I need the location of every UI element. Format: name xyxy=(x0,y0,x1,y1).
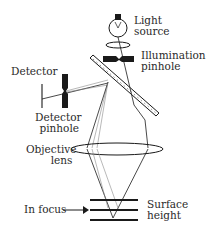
confocal-diagram: Light source Illumination pinhole Detect… xyxy=(0,0,206,235)
in-focus-label: In focus xyxy=(24,204,67,215)
objective-lens-shape xyxy=(71,143,163,155)
illumination-pinhole-label: Illumination pinhole xyxy=(141,50,206,72)
light-source-label: Light source xyxy=(134,15,170,37)
illumination-pinhole-shape xyxy=(103,56,134,62)
objective-lens-label: Objective lens xyxy=(26,144,76,166)
detector-label: Detector xyxy=(11,66,58,77)
condenser-lens xyxy=(106,42,130,48)
surface-height-label: Surface height xyxy=(147,199,188,221)
light-bulb-icon xyxy=(109,14,127,37)
surface-height-lines xyxy=(90,200,138,220)
in-focus-arrow-icon xyxy=(63,206,89,214)
detector-pinhole-label: Detector pinhole xyxy=(35,112,82,134)
